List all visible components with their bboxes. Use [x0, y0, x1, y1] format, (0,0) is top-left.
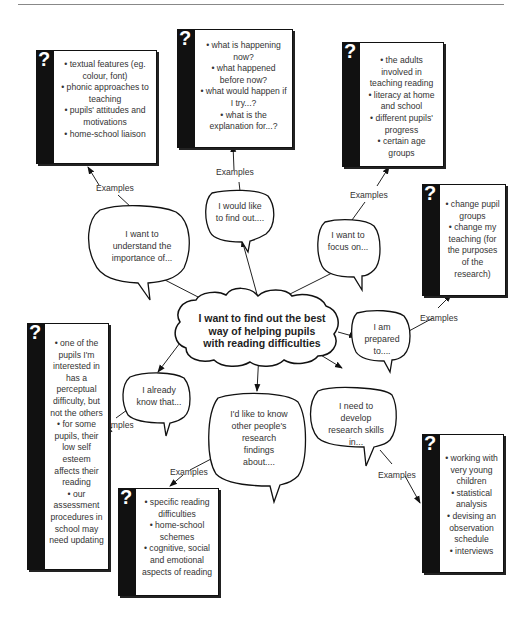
example-item: the adults involved in teaching reading — [364, 55, 439, 90]
examples-box-others-findings: ? specific reading difficulties home-sch… — [118, 488, 219, 596]
example-item: phonic approaches to teaching — [58, 82, 152, 105]
question-mark-icon: ? — [424, 432, 436, 454]
example-item: one of the pupils I'm interested in has … — [49, 338, 104, 419]
question-mark-icon: ? — [29, 321, 41, 343]
examples-label-find-out: Examples — [216, 167, 254, 177]
example-item: working with very young children — [444, 453, 499, 488]
question-mark-icon: ? — [424, 182, 436, 204]
question-bar: ? — [343, 43, 360, 166]
question-bar: ? — [423, 185, 440, 295]
examples-list: working with very young children statist… — [440, 435, 503, 572]
bubble-already-know: I already know that... — [136, 384, 182, 408]
example-item: what is happening now? — [199, 40, 288, 63]
bubble-others-findings: I'd like to know other people's research… — [230, 408, 288, 468]
examples-list: one of the pupils I'm interested in has … — [45, 324, 108, 569]
example-item: cognitive, social and emotional aspects … — [140, 543, 214, 578]
example-item: what would happen if I try...? — [199, 86, 288, 109]
examples-list: the adults involved in teaching reading … — [360, 43, 443, 166]
bubble-find-out: I would like to find out.... — [214, 200, 266, 224]
examples-box-already-know: ? one of the pupils I'm interested in ha… — [27, 323, 109, 570]
example-item: interviews — [444, 546, 499, 558]
examples-box-research-skills: ? working with very young children stati… — [422, 434, 504, 573]
examples-label-research-skills: Examples — [378, 470, 416, 480]
bubble-understand: I want to understand the importance of..… — [108, 228, 176, 264]
example-item: specific reading difficulties — [140, 497, 214, 520]
examples-list: specific reading difficulties home-schoo… — [136, 489, 218, 595]
example-item: literacy at home and school — [364, 90, 439, 113]
bubble-research-skills: I need to develop research skills in... — [326, 400, 386, 448]
bubble-prepared: I am prepared to.... — [360, 321, 404, 357]
question-bar: ? — [37, 51, 54, 163]
examples-box-find-out: ? what is happening now? what happened b… — [177, 29, 293, 148]
question-bar: ? — [178, 30, 195, 147]
examples-box-prepared: ? change pupil groups change my teaching… — [422, 184, 506, 296]
question-mark-icon: ? — [344, 40, 356, 62]
example-item: statistical analysis — [444, 488, 499, 511]
examples-list: what is happening now? what happened bef… — [195, 30, 292, 147]
examples-label-prepared: Examples — [420, 313, 458, 323]
example-item: our assessment procedures in school may … — [49, 489, 104, 547]
examples-label-understand: Examples — [96, 183, 134, 193]
examples-label-focus: Examples — [350, 190, 388, 200]
example-item: textual features (eg. colour, font) — [58, 59, 152, 82]
question-bar: ? — [423, 435, 440, 572]
example-item: change pupil groups — [444, 199, 501, 222]
bubble-focus: I want to focus on... — [326, 229, 370, 253]
example-item: certain age groups — [364, 136, 439, 159]
examples-list: change pupil groups change my teaching (… — [440, 185, 505, 295]
example-item: devising an observation schedule — [444, 511, 499, 546]
example-item: different pupils' progress — [364, 113, 439, 136]
examples-list: textual features (eg. colour, font) phon… — [54, 51, 156, 163]
example-item: home-school schemes — [140, 520, 214, 543]
example-item: what happened before now? — [199, 63, 288, 86]
example-item: what is the explanation for...? — [199, 110, 288, 133]
question-mark-icon: ? — [120, 486, 132, 508]
example-item: change my teaching (for the purposes of … — [444, 222, 501, 280]
question-bar: ? — [28, 324, 45, 569]
example-item: home-school liaison — [58, 129, 152, 141]
question-mark-icon: ? — [38, 48, 50, 70]
examples-label-others-findings: Examples — [170, 467, 208, 477]
example-item: pupils' attitudes and motivations — [58, 105, 152, 128]
question-mark-icon: ? — [179, 27, 191, 49]
examples-box-understand: ? textual features (eg. colour, font) ph… — [36, 50, 157, 164]
example-item: for some pupils, their low self esteem a… — [49, 419, 104, 489]
central-question: I want to find out the best way of helpi… — [198, 312, 326, 350]
examples-box-focus: ? the adults involved in teaching readin… — [342, 42, 444, 167]
question-bar: ? — [119, 489, 136, 595]
